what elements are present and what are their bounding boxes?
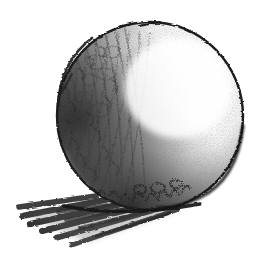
sphere-sketch [0, 0, 276, 268]
sketch-artboard: Shaded Sphere graphite pencil sketch sph… [0, 0, 276, 268]
specular-highlight [124, 38, 232, 138]
